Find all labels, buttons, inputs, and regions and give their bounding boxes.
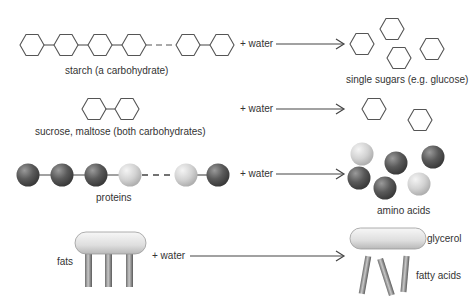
arrow-icon (276, 169, 344, 179)
hexagon-icon (122, 35, 146, 56)
protein-chain (17, 164, 230, 187)
amino-acids-label: amino acids (377, 205, 430, 217)
single-sugars-label: single sugars (e.g. glucose) (346, 74, 468, 86)
hexagon-icon (20, 35, 44, 56)
hexagon-icon (88, 35, 112, 56)
amino-acid-dark-icon (422, 146, 445, 169)
amino-acid-light-icon (351, 143, 374, 166)
fatty-acid-icon (400, 256, 409, 292)
amino-acid-dark-icon (385, 152, 408, 175)
water-label: + water (240, 38, 273, 50)
amino-acid-light-icon (175, 164, 198, 187)
proteins-label: proteins (96, 192, 132, 204)
disaccharide-products (362, 99, 432, 131)
arrow-icon (190, 251, 344, 261)
hexagon-icon (54, 35, 78, 56)
amino-acid-dark-icon (348, 167, 371, 190)
hexagon-icon (82, 99, 106, 120)
amino-acid-dark-icon (51, 164, 74, 187)
fat-products (350, 228, 426, 296)
fatty-acid-icon (377, 258, 394, 296)
amino-acids (348, 143, 445, 200)
hexagon-icon (380, 19, 404, 40)
amino-acid-dark-icon (17, 164, 40, 187)
glycerol-icon (75, 232, 146, 254)
water-label: + water (240, 103, 273, 115)
fatty-acid-icon (359, 256, 372, 294)
amino-acid-dark-icon (207, 164, 230, 187)
glycerol-icon (350, 228, 426, 249)
amino-acid-dark-icon (85, 164, 108, 187)
glycerol-label: glycerol (427, 233, 461, 245)
disaccharide (82, 99, 139, 120)
water-label: + water (240, 168, 273, 180)
hexagon-icon (350, 34, 374, 55)
diagram-canvas (0, 0, 476, 296)
water-label: + water (152, 250, 185, 262)
starch-chain (20, 35, 234, 56)
single-sugars (350, 19, 444, 69)
fatty-acids-label: fatty acids (416, 270, 461, 282)
hexagon-icon (176, 35, 200, 56)
fats-label: fats (57, 256, 73, 268)
hexagon-icon (420, 39, 444, 60)
fatty-acid-icon (85, 252, 92, 287)
amino-acid-light-icon (119, 164, 142, 187)
hexagon-icon (210, 35, 234, 56)
hexagon-icon (115, 99, 139, 120)
hexagon-icon (408, 110, 432, 131)
amino-acid-light-icon (408, 173, 431, 196)
hexagon-icon (362, 99, 386, 120)
arrow-icon (276, 39, 344, 49)
hexagon-icon (387, 48, 411, 69)
fat-molecule (75, 232, 146, 287)
amino-acid-dark-icon (374, 177, 397, 200)
disaccharide-label: sucrose, maltose (both carbohydrates) (35, 126, 206, 138)
fatty-acid-icon (105, 252, 112, 287)
arrow-icon (276, 104, 344, 114)
fatty-acid-icon (126, 252, 133, 287)
starch-label: starch (a carbohydrate) (65, 65, 168, 77)
